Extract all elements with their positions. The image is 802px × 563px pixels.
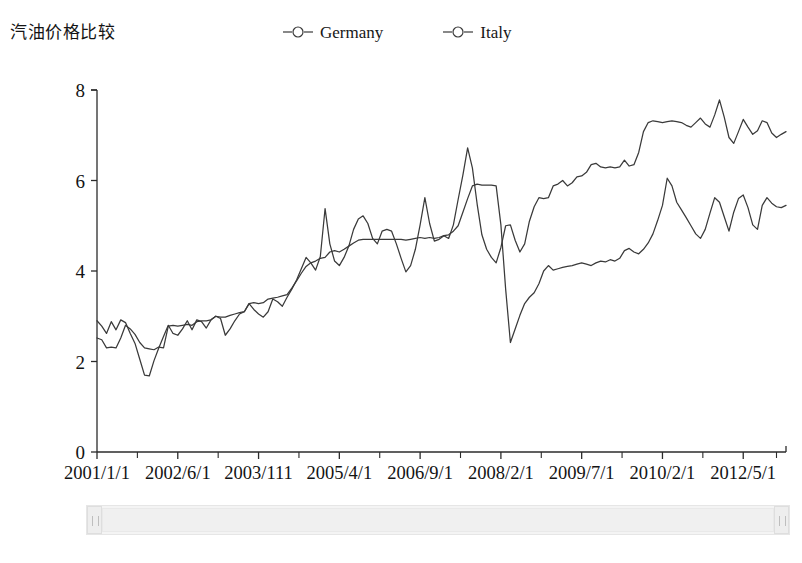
y-tick-label: 2 (76, 352, 86, 373)
series-line-italy (97, 178, 786, 349)
x-tick-label: 2012/5/1 (710, 463, 776, 483)
x-tick-label: 2009/7/1 (549, 463, 615, 483)
y-tick-label: 6 (76, 171, 86, 192)
x-axis-ticks: 2001/1/12002/6/12003/1112005/4/12006/9/1… (64, 452, 776, 483)
y-tick-label: 4 (76, 261, 86, 282)
scroll-left-arrow-icon[interactable] (87, 506, 102, 534)
y-tick-label: 0 (76, 442, 86, 463)
y-tick-label: 8 (76, 80, 86, 101)
series-line-germany (97, 100, 786, 376)
chart-page: 汽油价格比较 Germany Italy 02468 2001/1/12002/… (0, 0, 802, 563)
x-tick-label: 2002/6/1 (145, 463, 211, 483)
x-tick-label: 2005/4/1 (306, 463, 372, 483)
x-tick-label: 2010/2/1 (630, 463, 696, 483)
chart-series (97, 100, 786, 376)
x-tick-label: 2001/1/1 (64, 463, 130, 483)
chart-plot-area: 02468 2001/1/12002/6/12003/1112005/4/120… (0, 0, 802, 500)
scrollbar-thumb[interactable] (102, 508, 774, 532)
scrollbar-track[interactable] (102, 506, 774, 534)
y-axis-ticks: 02468 (76, 80, 98, 463)
scroll-right-arrow-icon[interactable] (774, 506, 789, 534)
x-tick-label: 2006/9/1 (387, 463, 453, 483)
x-tick-label: 2003/111 (224, 463, 293, 483)
x-tick-label: 2008/2/1 (468, 463, 534, 483)
horizontal-scrollbar[interactable] (86, 505, 790, 535)
chart-axes (91, 90, 786, 452)
line-chart-svg: 02468 2001/1/12002/6/12003/1112005/4/120… (0, 0, 802, 500)
